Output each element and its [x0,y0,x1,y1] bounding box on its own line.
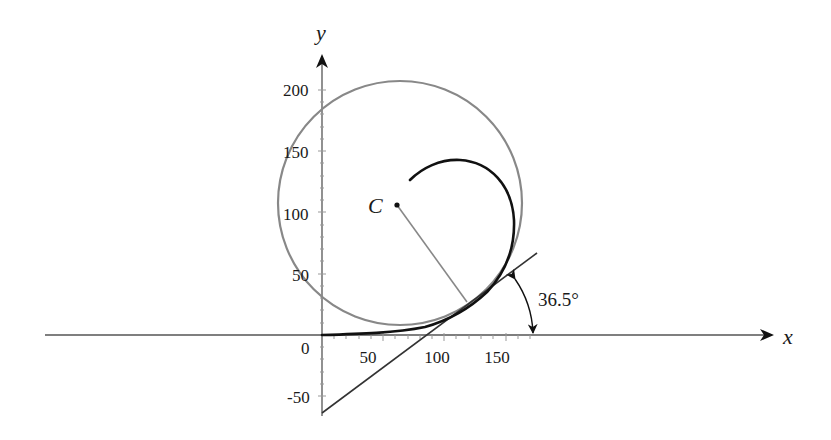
angle-arc [515,279,533,333]
x-axis-label: x [782,324,793,349]
curve [322,160,514,335]
y-tick-50: 50 [292,266,309,285]
y-tick-neg50: -50 [287,388,310,407]
radius-segment [397,205,467,302]
center-label: C [368,193,383,218]
y-tick-200: 200 [283,81,309,100]
x-tick-50: 50 [360,348,377,367]
y-tick-100: 100 [283,205,309,224]
center-point [394,202,399,207]
diagram-canvas: y x 200 150 100 50 0 -50 50 100 150 C 36… [0,0,831,440]
osculating-circle [278,81,522,325]
origin-label: 0 [301,339,310,358]
angle-label: 36.5° [538,289,579,310]
x-tick-150: 150 [484,348,510,367]
x-tick-100: 100 [424,348,450,367]
y-axis-label: y [314,20,326,45]
y-tick-150: 150 [283,143,309,162]
